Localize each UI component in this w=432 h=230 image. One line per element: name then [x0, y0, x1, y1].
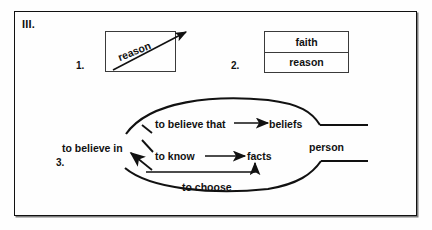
figure-canvas: III. 1. reason 2. faith reason 3. — [0, 0, 432, 230]
label-to-believe-that: to believe that — [155, 118, 226, 130]
reason-cell: reason — [265, 53, 348, 73]
label-person: person — [309, 141, 344, 153]
label-to-choose: to choose — [182, 181, 232, 193]
item-number-3: 3. — [56, 157, 64, 168]
label-facts: facts — [247, 150, 272, 162]
faith-cell: faith — [265, 32, 348, 53]
label-to-believe-in: to believe in — [62, 142, 123, 154]
item-number-2: 2. — [231, 60, 239, 71]
label-beliefs: beliefs — [269, 118, 302, 130]
faith-reason-box: faith reason — [264, 31, 349, 73]
figure-roman-label: III. — [22, 18, 35, 30]
item-number-1: 1. — [76, 60, 84, 71]
label-to-know: to know — [155, 150, 195, 162]
